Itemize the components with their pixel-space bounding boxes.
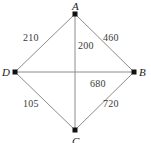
weighted-graph-figure: A B C D 210 460 200 680 105 720 [0, 0, 151, 143]
edge-weight-DC: 105 [23, 99, 39, 109]
graph-canvas [0, 0, 151, 143]
vertex-label-D: D [2, 67, 10, 78]
edge-line-DA [15, 14, 75, 72]
edge-weight-AC: 200 [78, 41, 94, 51]
vertex-node-C [73, 128, 78, 133]
edge-weight-AB: 460 [103, 33, 119, 43]
vertex-node-B [132, 70, 137, 75]
edge-weight-DB: 680 [90, 79, 106, 89]
vertex-label-B: B [139, 67, 146, 78]
vertex-label-C: C [72, 136, 79, 143]
vertex-node-A [73, 12, 78, 17]
edge-weight-DA: 210 [23, 33, 39, 43]
vertex-label-A: A [72, 1, 79, 12]
edge-weight-CB: 720 [103, 99, 119, 109]
vertex-node-D [13, 70, 18, 75]
